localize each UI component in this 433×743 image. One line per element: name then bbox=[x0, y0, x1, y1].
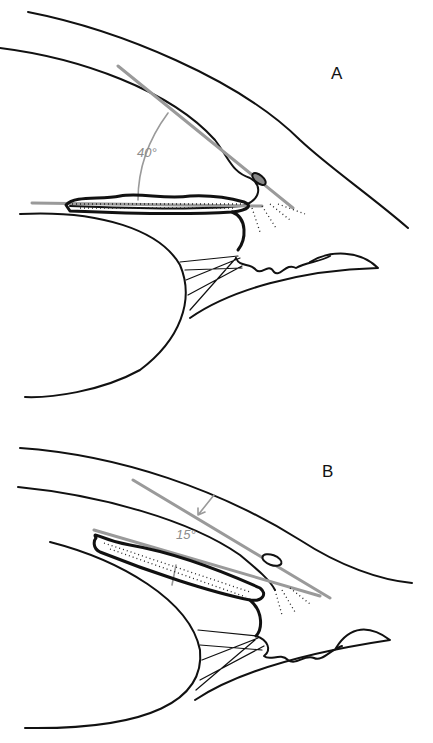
angle-tick-b bbox=[172, 565, 176, 585]
cornea-outer-curve-b bbox=[20, 448, 412, 583]
cornea-inner-curve-b bbox=[18, 487, 275, 590]
iris-posterior-fold-b bbox=[250, 600, 261, 636]
schlemm-canal-b bbox=[261, 552, 283, 568]
panel-b-drawing bbox=[0, 0, 433, 743]
angle-line-cornea-b bbox=[133, 480, 330, 598]
ciliary-body-b bbox=[195, 630, 390, 700]
angle-arrow-b bbox=[198, 495, 214, 515]
panel-b-label: B bbox=[322, 462, 333, 482]
lens-b bbox=[25, 542, 200, 728]
angle-label-b: 15° bbox=[176, 527, 196, 542]
